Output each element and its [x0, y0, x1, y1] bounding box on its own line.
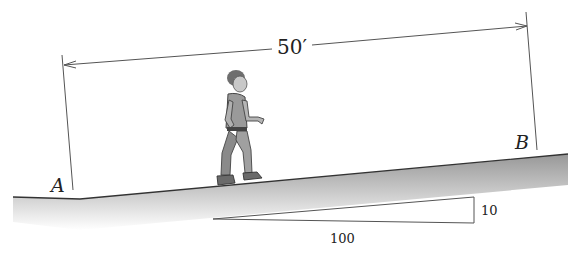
run-label: 100 [330, 232, 355, 245]
extension-line-a [62, 55, 73, 190]
point-b-label: B [515, 133, 529, 152]
point-a-label: A [51, 176, 65, 195]
extension-line-b [526, 12, 537, 150]
dimension-label: 50′ [277, 37, 307, 57]
rise-label: 10 [481, 204, 498, 217]
child-figure [217, 70, 264, 185]
ground [13, 154, 568, 230]
